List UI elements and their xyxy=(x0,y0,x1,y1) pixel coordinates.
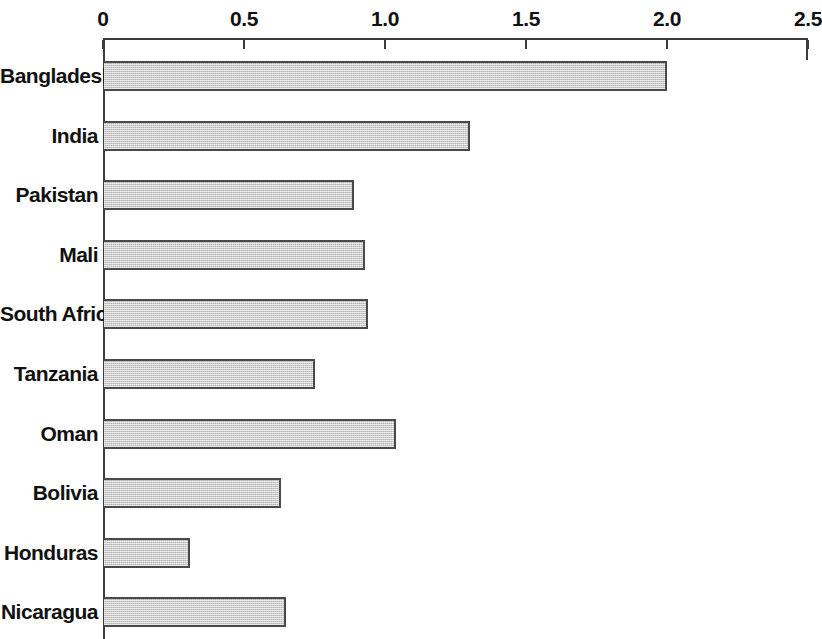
x-axis-tick-label: 2.5 xyxy=(794,8,822,30)
x-axis-tick-label: 0 xyxy=(97,8,108,30)
bar xyxy=(104,121,470,151)
category-label: Nicaragua xyxy=(0,601,98,623)
x-axis-tick xyxy=(525,40,527,49)
category-label: Oman xyxy=(0,423,98,445)
category-label: South Africa xyxy=(0,303,98,325)
x-axis-tick xyxy=(384,40,386,49)
category-label: Bolivia xyxy=(0,482,98,504)
category-label: India xyxy=(0,125,98,147)
bar xyxy=(104,180,354,210)
bar xyxy=(104,478,281,508)
x-axis-tick xyxy=(102,40,104,49)
x-axis-tick xyxy=(666,40,668,49)
bar xyxy=(104,419,396,449)
category-label: Bangladesh xyxy=(0,65,98,87)
bar xyxy=(104,299,368,329)
x-axis-tick-label: 0.5 xyxy=(230,8,258,30)
x-axis-tick-label: 2.0 xyxy=(653,8,681,30)
category-label: Honduras xyxy=(0,542,98,564)
x-axis-tick xyxy=(243,40,245,49)
bar xyxy=(104,240,365,270)
bar xyxy=(104,538,190,568)
x-axis-tick-label: 1.0 xyxy=(371,8,399,30)
category-label: Mali xyxy=(0,244,98,266)
axis-top-line xyxy=(103,38,808,40)
bar xyxy=(104,597,286,627)
category-label: Pakistan xyxy=(0,184,98,206)
x-axis-tick-label: 1.5 xyxy=(512,8,540,30)
x-axis-tick xyxy=(807,40,809,49)
category-label: Tanzania xyxy=(0,363,98,385)
bar xyxy=(104,359,315,389)
bar xyxy=(104,61,667,91)
